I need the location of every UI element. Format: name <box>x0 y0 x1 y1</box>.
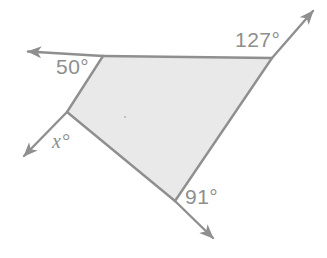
angle-label-127: 127° <box>235 29 280 50</box>
geometry-figure: 50° 127° x° 91° <box>0 0 327 258</box>
angle-label-50: 50° <box>56 56 89 77</box>
angle-label-x-unknown: x° <box>52 131 70 151</box>
shaded-quadrilateral <box>67 56 272 201</box>
angle-label-91: 91° <box>185 186 218 207</box>
interior-dot <box>124 116 126 118</box>
